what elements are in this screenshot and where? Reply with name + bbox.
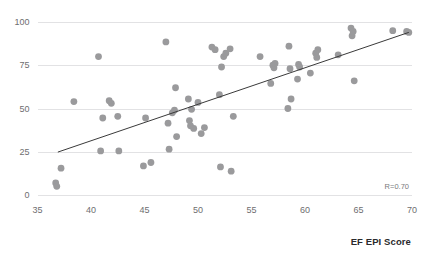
x-tick-label-40: 40 — [86, 205, 96, 215]
data-point — [58, 165, 65, 172]
data-point — [165, 120, 172, 127]
data-point — [228, 168, 235, 175]
data-point — [313, 54, 320, 61]
x-tick-label-65: 65 — [353, 205, 363, 215]
data-point — [70, 98, 77, 105]
x-tick-label-35: 35 — [32, 205, 42, 215]
data-point — [173, 133, 180, 140]
y-tick-label-75: 75 — [19, 60, 29, 70]
y-axis-tick-labels: 0255075100 — [14, 17, 29, 200]
x-axis-title: EF EPI Score — [351, 236, 411, 247]
data-point — [201, 124, 208, 131]
y-tick-label-50: 50 — [19, 104, 29, 114]
x-tick-label-55: 55 — [246, 205, 256, 215]
data-point — [288, 96, 295, 103]
data-point — [212, 46, 219, 53]
data-point — [218, 64, 225, 71]
data-point — [115, 147, 122, 154]
data-point — [389, 27, 396, 34]
data-point — [284, 105, 291, 112]
data-point — [166, 146, 173, 153]
data-point — [148, 159, 155, 166]
data-point — [286, 43, 293, 50]
data-point — [185, 96, 192, 103]
data-point — [142, 115, 149, 122]
y-tick-label-25: 25 — [19, 147, 29, 157]
x-tick-label-70: 70 — [407, 205, 417, 215]
data-point — [227, 45, 234, 52]
x-tick-label-50: 50 — [193, 205, 203, 215]
data-point — [190, 125, 197, 132]
data-point — [53, 183, 60, 190]
x-axis-tick-labels: 3540455055606570 — [32, 205, 417, 215]
regression-trendline — [58, 32, 409, 152]
plot-canvas: 0255075100 3540455055606570 R=0.70 — [0, 0, 423, 269]
scatter-plot-figure: 0255075100 3540455055606570 R=0.70 EF EP… — [0, 0, 423, 269]
data-point — [257, 53, 264, 60]
correlation-annotation: R=0.70 — [385, 182, 409, 191]
data-point — [230, 113, 237, 120]
data-point — [287, 65, 294, 72]
data-point — [114, 113, 121, 120]
data-point — [307, 70, 314, 77]
data-point — [95, 53, 102, 60]
data-point — [140, 163, 147, 170]
x-tick-label-60: 60 — [300, 205, 310, 215]
gridlines-group — [38, 23, 413, 196]
data-point — [198, 130, 205, 137]
data-point — [272, 60, 279, 67]
y-tick-label-100: 100 — [14, 17, 29, 27]
data-point — [99, 115, 106, 122]
data-point — [108, 100, 115, 107]
data-point — [217, 164, 224, 171]
trendline-group — [58, 32, 409, 152]
data-point — [267, 80, 274, 87]
data-point — [294, 76, 301, 83]
data-point — [350, 28, 357, 35]
data-point — [163, 38, 170, 45]
x-tick-label-45: 45 — [139, 205, 149, 215]
y-tick-label-0: 0 — [24, 190, 29, 200]
data-point — [314, 46, 321, 53]
data-point — [351, 77, 358, 84]
data-point — [172, 84, 179, 91]
data-point — [97, 147, 104, 154]
